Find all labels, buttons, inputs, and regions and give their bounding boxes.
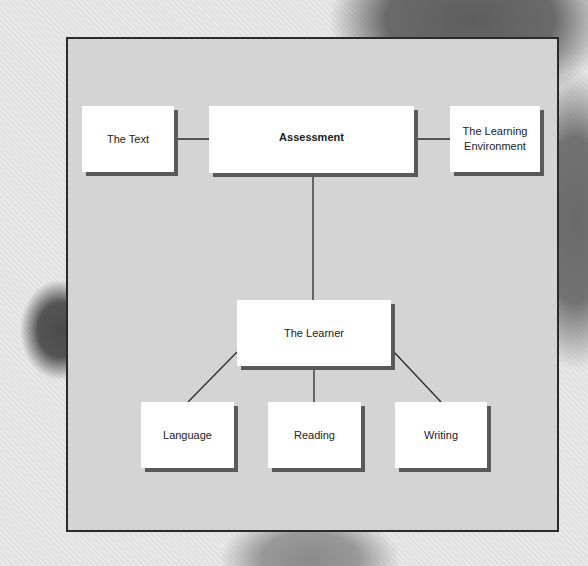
edge-learner-language	[188, 352, 237, 402]
node-label: Language	[163, 428, 212, 443]
node-label: Writing	[424, 428, 458, 443]
node-label: The Learner	[284, 326, 344, 341]
node-reading: Reading	[268, 402, 361, 468]
node-label: Reading	[294, 428, 335, 443]
edge-learner-writing	[394, 352, 441, 402]
node-label: Assessment	[279, 130, 344, 145]
node-label: The Learning Environment	[463, 124, 528, 154]
node-the-text: The Text	[82, 106, 174, 172]
connectors	[0, 0, 588, 566]
node-assessment: Assessment	[209, 106, 414, 173]
node-the-learner: The Learner	[237, 300, 391, 366]
node-learning-environment: The Learning Environment	[450, 106, 540, 172]
node-writing: Writing	[395, 402, 487, 468]
node-label: The Text	[107, 132, 149, 147]
node-language: Language	[141, 402, 234, 468]
